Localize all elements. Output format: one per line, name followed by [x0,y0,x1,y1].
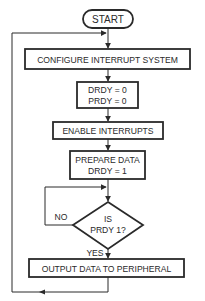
init-flags-line-2: PRDY = 0 [88,96,127,106]
return-arrowhead [39,290,45,295]
enable-node: ENABLE INTERRUPTS [53,122,163,139]
output-node: OUTPUT DATA TO PERIPHERAL [29,259,184,277]
yes-label: YES [86,248,103,258]
configure-node: CONFIGURE INTERRUPT SYSTEM [25,49,190,69]
init-flags-line-1: DRDY = 0 [88,85,127,95]
decision-line-1: IS [104,214,112,224]
prepare-line-2: DRDY = 1 [88,166,127,176]
enable-label: ENABLE INTERRUPTS [62,126,153,136]
edge-output-return [12,277,108,292]
prepare-node: PREPARE DATA DRDY = 1 [70,151,145,179]
decision-line-2: PRDY 1? [90,225,126,235]
flowchart: START CONFIGURE INTERRUPT SYSTEM DRDY = … [0,0,205,301]
start-label: START [92,14,124,25]
output-label: OUTPUT DATA TO PERIPHERAL [42,264,172,274]
start-node: START [83,10,133,28]
decision-node: IS PRDY 1? [73,202,143,249]
prepare-line-1: PREPARE DATA [75,155,140,165]
no-label: NO [55,212,68,222]
init-flags-node: DRDY = 0 PRDY = 0 [77,82,138,108]
configure-label: CONFIGURE INTERRUPT SYSTEM [37,55,178,65]
